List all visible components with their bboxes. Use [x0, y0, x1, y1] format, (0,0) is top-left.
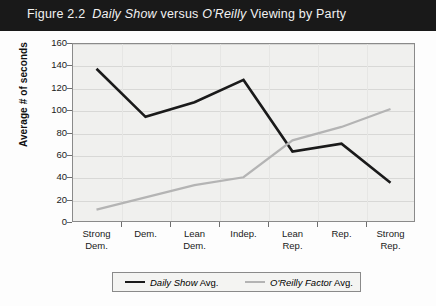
y-axis-labels: 020406080100120140160 [18, 43, 67, 222]
legend-label: O'Reilly Factor Avg. [270, 277, 353, 288]
x-axis-tick-label: StrongRep. [366, 228, 415, 251]
x-axis-tick [170, 222, 171, 227]
x-axis-tick-label: StrongDem. [72, 228, 121, 251]
y-axis-tick-label: 20 [23, 194, 67, 205]
y-axis-tick-label: 100 [23, 104, 67, 115]
y-axis-tick [67, 65, 72, 66]
x-axis-label-line: Rep. [317, 228, 366, 240]
figure-title-show-1: Daily Show [92, 7, 157, 21]
y-axis-tick-label: 160 [23, 37, 67, 48]
figure-title-tail: Viewing by Party [250, 7, 346, 21]
series-line-oreilly-factor [97, 109, 391, 210]
y-axis-tick [67, 155, 72, 156]
y-axis-tick-label: 80 [23, 127, 67, 138]
y-axis-tick-label: 140 [23, 59, 67, 70]
x-axis-label-line: Dem. [170, 240, 219, 252]
page-title: Figure 2.2Daily Show versus O'Reilly Vie… [27, 7, 346, 21]
x-axis-label-line: Strong [366, 228, 415, 240]
x-axis-tick-label: Rep. [317, 228, 366, 240]
legend-label-show: O'Reilly Factor [270, 277, 332, 288]
y-axis-tick [67, 110, 72, 111]
x-axis-label-line: Rep. [268, 240, 317, 252]
y-axis-tick [67, 222, 72, 223]
figure-title-bar: Figure 2.2Daily Show versus O'Reilly Vie… [0, 0, 436, 31]
legend-swatch [245, 281, 265, 283]
y-axis-tick [67, 200, 72, 201]
legend-label-show: Daily Show [150, 277, 198, 288]
chart-legend: Daily Show Avg.O'Reilly Factor Avg. [112, 272, 361, 292]
y-axis-tick [67, 177, 72, 178]
y-axis-tick-label: 60 [23, 149, 67, 160]
x-axis-label-line: Dem. [121, 228, 170, 240]
x-axis-label-line: Lean [268, 228, 317, 240]
x-axis-tick [366, 222, 367, 227]
figure-number: Figure 2.2 [27, 7, 85, 21]
chart-container: Average # of seconds 0204060801001201401… [0, 31, 436, 306]
legend-item-oreilly-factor: O'Reilly Factor Avg. [245, 276, 353, 290]
y-axis-tick-label: 120 [23, 82, 67, 93]
figure-title-show-2: O'Reilly [202, 7, 246, 21]
x-axis-tick [219, 222, 220, 227]
x-axis-labels: StrongDem.Dem.LeanDem.Indep.LeanRep.Rep.… [72, 228, 415, 262]
x-axis-tick-label: LeanRep. [268, 228, 317, 251]
x-axis-tick [121, 222, 122, 227]
series-layer [72, 43, 415, 222]
y-axis-tick [67, 88, 72, 89]
x-axis-tick-label: Dem. [121, 228, 170, 240]
y-axis-tick-label: 40 [23, 171, 67, 182]
figure-title-versus: versus [161, 7, 199, 21]
x-axis-label-line: Indep. [219, 228, 268, 240]
x-axis-tick [268, 222, 269, 227]
legend-swatch [125, 281, 145, 283]
x-axis-label-line: Lean [170, 228, 219, 240]
x-axis-tick [317, 222, 318, 227]
y-axis-tick-label: 0 [23, 216, 67, 227]
x-axis-label-line: Strong [72, 228, 121, 240]
x-axis-tick-label: LeanDem. [170, 228, 219, 251]
y-axis-tick [67, 43, 72, 44]
x-axis-tick-label: Indep. [219, 228, 268, 240]
y-axis-tick [67, 133, 72, 134]
legend-item-daily-show: Daily Show Avg. [125, 276, 218, 290]
x-axis-label-line: Dem. [72, 240, 121, 252]
legend-label: Daily Show Avg. [150, 277, 218, 288]
x-axis-label-line: Rep. [366, 240, 415, 252]
